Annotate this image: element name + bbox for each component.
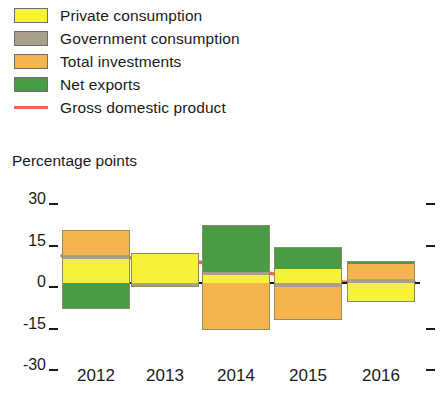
y-axis-tick-label: -30 [0, 356, 46, 374]
gdp-line-overlay [0, 0, 442, 403]
bar-segment [347, 283, 415, 302]
y-axis-tick-mark-right [426, 328, 435, 330]
bar-segment [62, 283, 130, 309]
y-axis-tick-mark [49, 286, 58, 288]
bar-segment [202, 225, 270, 272]
x-axis-tick-label: 2014 [201, 366, 271, 386]
bar-segment [62, 255, 130, 259]
bar-segment [347, 261, 415, 263]
chart-plot-area: 30150-15-3020122013201420152016 [0, 0, 442, 403]
y-axis-tick-mark [49, 369, 58, 371]
y-axis-tick-mark [49, 245, 58, 247]
y-axis-tick-mark-right [426, 203, 435, 205]
y-axis-tick-mark [49, 328, 58, 330]
bar-segment [202, 275, 270, 283]
bar-segment [347, 264, 415, 279]
bar-segment [274, 247, 342, 269]
y-axis-tick-mark-right [426, 245, 435, 247]
x-axis-tick-label: 2015 [273, 366, 343, 386]
y-axis-tick-mark-right [426, 369, 435, 371]
y-axis-tick-label: 30 [0, 190, 46, 208]
y-axis-tick-label: -15 [0, 315, 46, 333]
bar-segment [274, 269, 342, 283]
y-axis-tick-label: 0 [0, 273, 46, 291]
x-axis-tick-label: 2016 [346, 366, 416, 386]
x-axis-tick-label: 2013 [130, 366, 200, 386]
y-axis-tick-mark [49, 203, 58, 205]
bar-segment [274, 287, 342, 320]
bar-segment [62, 230, 130, 255]
bar-segment [202, 283, 270, 330]
x-axis-tick-label: 2012 [61, 366, 131, 386]
bar-segment [62, 259, 130, 283]
y-axis-tick-label: 15 [0, 232, 46, 250]
bar-segment [131, 283, 199, 287]
bar-segment [202, 272, 270, 275]
bar-segment [131, 253, 199, 283]
